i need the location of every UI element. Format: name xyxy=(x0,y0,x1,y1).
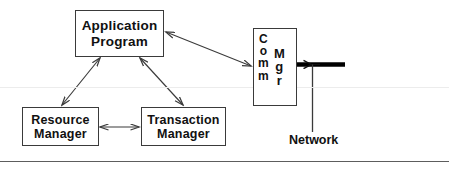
mgr-char-1: M xyxy=(274,47,285,60)
comm-char-3: m xyxy=(258,57,269,69)
node-resource-manager[interactable]: Resource Manager xyxy=(22,107,99,146)
node-transaction-manager[interactable]: Transaction Manager xyxy=(141,107,226,146)
diagram-canvas: Application Program Resource Manager Tra… xyxy=(0,0,449,169)
node-transaction-manager-line-1: Transaction xyxy=(147,113,219,127)
mgr-char-2: g xyxy=(275,60,283,73)
node-transaction-manager-line-2: Manager xyxy=(157,127,210,141)
connector-app-to-resource xyxy=(62,58,100,105)
node-application-program[interactable]: Application Program xyxy=(75,10,164,57)
node-resource-manager-line-2: Manager xyxy=(34,127,87,141)
connector-app-to-transaction xyxy=(140,58,183,105)
node-resource-manager-line-1: Resource xyxy=(31,113,90,127)
mgr-char-3: r xyxy=(277,74,282,87)
connector-app-to-comm xyxy=(166,32,251,66)
faint-divider xyxy=(0,87,449,88)
node-comm-mgr[interactable]: C o m m M g r xyxy=(253,28,297,106)
comm-char-4: m xyxy=(258,70,269,82)
node-comm-mgr-word-mgr: M g r xyxy=(274,31,285,105)
node-comm-mgr-word-comm: C o m m xyxy=(258,31,269,105)
node-application-program-line-2: Program xyxy=(91,34,148,49)
node-application-program-line-1: Application xyxy=(82,18,158,33)
network-label: Network xyxy=(289,133,338,147)
bottom-divider xyxy=(0,161,449,162)
